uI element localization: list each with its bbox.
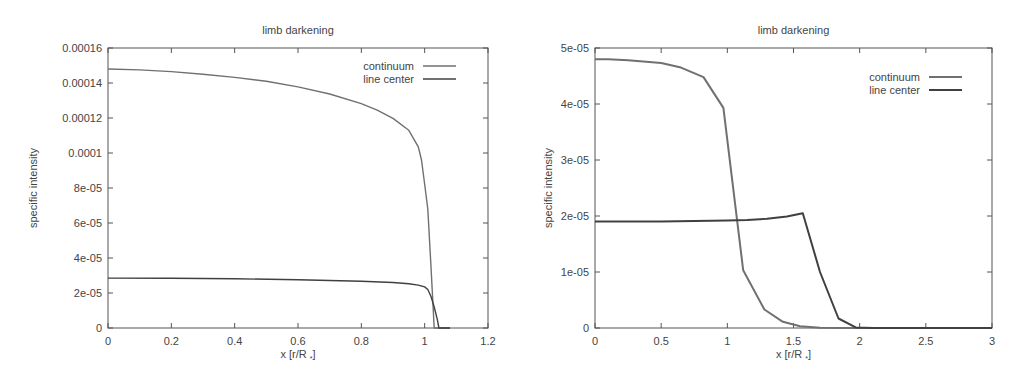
x-tick-label: 1.5 bbox=[786, 335, 801, 347]
x-tick-label: 2 bbox=[857, 335, 863, 347]
left-chart-panel: limb darkeningspecific intensityx [r/R *… bbox=[0, 0, 509, 383]
series-line-center bbox=[108, 278, 450, 328]
x-tick-label: 0 bbox=[592, 335, 598, 347]
y-tick-label: 4e-05 bbox=[74, 252, 102, 264]
x-tick-label: 1 bbox=[724, 335, 730, 347]
y-axis-label: specific intensity bbox=[542, 147, 554, 228]
y-tick-label: 6e-05 bbox=[74, 217, 102, 229]
x-tick-label: 1.2 bbox=[480, 335, 495, 347]
right-chart: limb darkeningspecific intensityx [r/R *… bbox=[509, 0, 1018, 383]
x-tick-label: 0.4 bbox=[227, 335, 242, 347]
y-tick-label: 2e-05 bbox=[561, 210, 589, 222]
y-tick-label: 0.00016 bbox=[62, 42, 102, 54]
chart-title: limb darkening bbox=[758, 24, 830, 36]
x-axis: 00.20.40.60.811.2 bbox=[105, 48, 496, 347]
y-axis: 01e-052e-053e-054e-055e-05 bbox=[561, 42, 992, 334]
left-chart: limb darkeningspecific intensityx [r/R *… bbox=[0, 0, 509, 383]
x-tick-label: 0.2 bbox=[164, 335, 179, 347]
y-tick-label: 0.0001 bbox=[68, 147, 102, 159]
x-axis: 00.511.522.53 bbox=[592, 48, 995, 347]
series-continuum bbox=[595, 59, 992, 328]
right-chart-panel: limb darkeningspecific intensityx [r/R *… bbox=[509, 0, 1018, 383]
x-tick-label: 1 bbox=[422, 335, 428, 347]
x-axis-label: x [r/R *] bbox=[776, 348, 811, 362]
legend-label: continuum bbox=[869, 71, 920, 83]
y-tick-label: 0 bbox=[96, 322, 102, 334]
plot-frame bbox=[108, 48, 488, 328]
y-axis-label: specific intensity bbox=[27, 147, 39, 228]
y-axis: 02e-054e-056e-058e-050.00010.000120.0001… bbox=[62, 42, 488, 334]
x-tick-label: 0.6 bbox=[290, 335, 305, 347]
x-tick-label: 0.5 bbox=[654, 335, 669, 347]
x-tick-label: 3 bbox=[989, 335, 995, 347]
x-axis-label: x [r/R *] bbox=[280, 348, 315, 362]
y-tick-label: 3e-05 bbox=[561, 154, 589, 166]
legend-label: line center bbox=[363, 73, 414, 85]
y-tick-label: 0 bbox=[583, 322, 589, 334]
y-tick-label: 2e-05 bbox=[74, 287, 102, 299]
series-line-center bbox=[595, 213, 992, 328]
x-tick-label: 2.5 bbox=[918, 335, 933, 347]
legend-label: continuum bbox=[363, 60, 414, 72]
series-continuum bbox=[108, 69, 450, 328]
y-tick-label: 5e-05 bbox=[561, 42, 589, 54]
y-tick-label: 0.00012 bbox=[62, 112, 102, 124]
legend: continuumline center bbox=[869, 71, 962, 96]
chart-title: limb darkening bbox=[262, 24, 334, 36]
x-tick-label: 0.8 bbox=[354, 335, 369, 347]
y-tick-label: 8e-05 bbox=[74, 182, 102, 194]
y-tick-label: 0.00014 bbox=[62, 77, 102, 89]
y-tick-label: 4e-05 bbox=[561, 98, 589, 110]
x-tick-label: 0 bbox=[105, 335, 111, 347]
legend: continuumline center bbox=[363, 60, 456, 85]
legend-label: line center bbox=[869, 84, 920, 96]
y-tick-label: 1e-05 bbox=[561, 266, 589, 278]
